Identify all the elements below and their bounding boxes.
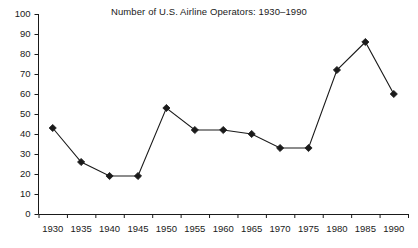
x-axis-tick-label: 1990 (383, 223, 404, 234)
x-axis-tick-label: 1945 (127, 223, 148, 234)
x-axis-tick-label: 1980 (326, 223, 347, 234)
y-axis-tick-label: 90 (20, 28, 31, 39)
x-axis-tick-label: 1960 (213, 223, 234, 234)
y-axis-tick-label: 30 (20, 148, 31, 159)
axes (39, 14, 409, 215)
y-axis-tick-label: 0 (25, 208, 30, 219)
y-axis-tick-labels: 0102030405060708090100 (15, 8, 31, 219)
y-axis-tick-label: 40 (20, 128, 31, 139)
x-axis-tick-label: 1930 (42, 223, 63, 234)
x-axis-tick-label: 1935 (71, 223, 92, 234)
y-axis-tick-label: 60 (20, 88, 31, 99)
y-axis-tick-label: 80 (20, 48, 31, 59)
y-axis-ticks (35, 15, 39, 215)
line-chart-plot: 0102030405060708090100 19301935194019451… (0, 0, 418, 248)
data-point-marker (134, 172, 141, 179)
y-axis-tick-label: 20 (20, 168, 31, 179)
x-axis-tick-label: 1970 (270, 223, 291, 234)
data-series-markers (49, 38, 397, 179)
chart-figure: Number of U.S. Airline Operators: 1930–1… (0, 0, 418, 248)
data-point-marker (220, 126, 227, 133)
data-point-marker (390, 90, 397, 97)
x-axis-tick-label: 1985 (355, 223, 376, 234)
data-point-marker (276, 144, 283, 151)
y-axis-tick-label: 70 (20, 68, 31, 79)
x-axis-tick-label: 1975 (298, 223, 319, 234)
x-axis-tick-label: 1940 (99, 223, 120, 234)
x-axis-tick-label: 1955 (184, 223, 205, 234)
x-axis-tick-labels: 1930193519401945195019551960196519701975… (42, 223, 404, 234)
data-point-marker (305, 144, 312, 151)
series-polyline (53, 42, 394, 176)
x-axis-tick-label: 1950 (156, 223, 177, 234)
x-axis-tick-label: 1965 (241, 223, 262, 234)
y-axis-tick-label: 100 (15, 8, 31, 19)
data-series-line (53, 42, 394, 176)
y-axis-tick-label: 10 (20, 188, 31, 199)
data-point-marker (248, 130, 255, 137)
y-axis-tick-label: 50 (20, 108, 31, 119)
data-point-marker (106, 172, 113, 179)
